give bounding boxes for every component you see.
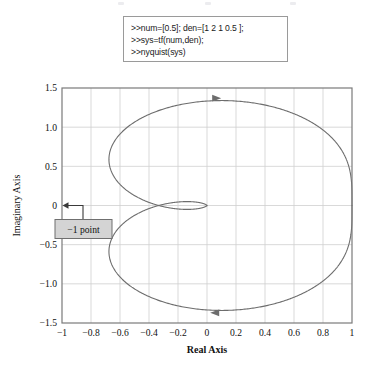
callout-label: −1 point [67,224,100,235]
x-tick-label: 0.4 [259,327,271,338]
command-line-1: >>num=[0.5]; den=[1 2 1 0.5 ]; [131,22,287,34]
y-axis-title: Imaginary Axis [11,174,22,236]
y-tick-label: 0 [52,200,57,211]
x-tick-label: −0.8 [82,327,100,338]
x-tick-label: −0.4 [140,327,158,338]
command-line-3: >>nyquist(sys) [131,46,287,58]
x-axis-title: Real Axis [187,344,227,355]
x-tick-label: 0.2 [230,327,242,338]
nyquist-plot: −1−0.8−0.6−0.4−0.200.20.40.60.81−1.5−1.0… [0,70,377,371]
x-tick-label: −0.2 [169,327,187,338]
matlab-command-box: >>num=[0.5]; den=[1 2 1 0.5 ]; >>sys=tf(… [123,16,288,62]
figure-root: >>num=[0.5]; den=[1 2 1 0.5 ]; >>sys=tf(… [0,0,377,371]
y-tick-label: −1.0 [40,278,58,289]
y-tick-label: 0.5 [45,161,57,172]
x-tick-label: 1 [350,327,355,338]
y-tick-label: −0.5 [40,239,58,250]
y-tick-label: 1.5 [45,82,57,93]
scan-artifact-strip [0,0,377,8]
x-tick-label: 0 [205,327,210,338]
x-tick-label: −1 [57,327,67,338]
x-tick-label: 0.6 [288,327,300,338]
x-tick-label: −0.6 [111,327,129,338]
y-tick-label: 1.0 [45,122,57,133]
x-tick-label: 0.8 [317,327,329,338]
y-tick-label: −1.5 [40,317,58,328]
command-line-2: >>sys=tf(num,den); [131,34,287,46]
nyquist-plot-svg: −1−0.8−0.6−0.4−0.200.20.40.60.81−1.5−1.0… [0,70,377,371]
